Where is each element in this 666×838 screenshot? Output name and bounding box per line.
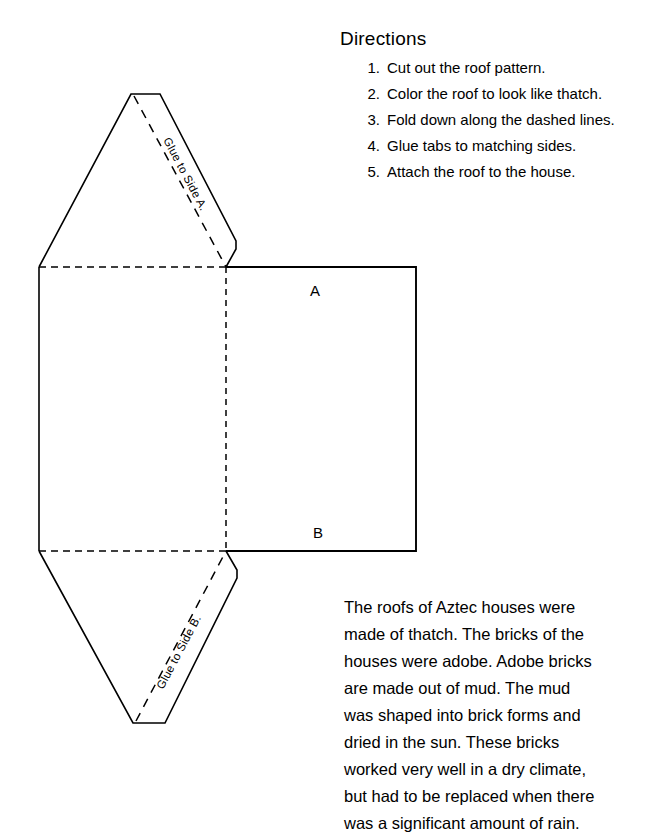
direction-text: Cut out the roof pattern. (387, 55, 545, 81)
direction-item-5: 5. Attach the roof to the house. (360, 159, 660, 185)
tab-bottom-label: Glue to Side B. (154, 613, 203, 691)
direction-item-3: 3. Fold down along the dashed lines. (360, 107, 660, 133)
direction-text: Fold down along the dashed lines. (387, 107, 615, 133)
directions-block: Directions 1. Cut out the roof pattern. … (338, 28, 660, 185)
direction-number: 2. (360, 81, 380, 107)
side-label-b: B (313, 524, 323, 541)
direction-number: 4. (360, 133, 380, 159)
side-label-a: A (310, 282, 320, 299)
direction-text: Color the roof to look like thatch. (387, 81, 602, 107)
directions-list: 1. Cut out the roof pattern. 2. Color th… (338, 55, 660, 185)
bottom-glue-tab (39, 551, 237, 723)
direction-number: 3. (360, 107, 380, 133)
fold-lines (39, 267, 226, 551)
direction-item-4: 4. Glue tabs to matching sides. (360, 133, 660, 159)
aztec-houses-paragraph: The roofs of Aztec houses were made of t… (344, 594, 656, 837)
right-roof-panel (226, 267, 416, 551)
tab-top-label: Glue to Side A. (161, 135, 210, 212)
top-glue-tab (39, 94, 236, 267)
worksheet-page: Glue to Side A. Glue to Side B. A B Dire… (0, 0, 666, 838)
direction-item-1: 1. Cut out the roof pattern. (360, 55, 660, 81)
direction-text: Attach the roof to the house. (387, 159, 575, 185)
direction-number: 5. (360, 159, 380, 185)
direction-item-2: 2. Color the roof to look like thatch. (360, 81, 660, 107)
direction-number: 1. (360, 55, 380, 81)
directions-heading: Directions (340, 28, 660, 50)
direction-text: Glue tabs to matching sides. (387, 133, 576, 159)
